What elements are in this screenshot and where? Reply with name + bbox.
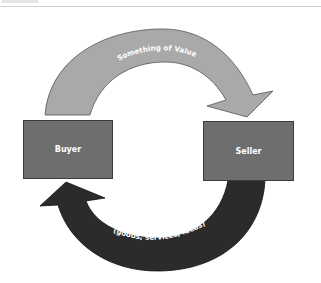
bottom-flow-title: Something of Value <box>119 205 197 225</box>
seller-box: Seller <box>203 121 294 181</box>
buyer-box: Buyer <box>23 120 113 179</box>
svg-text:Something of Value: Something of Value <box>119 205 197 225</box>
buyer-label: Buyer <box>55 145 81 154</box>
bottom-arrow <box>40 180 265 271</box>
seller-label: Seller <box>235 147 261 156</box>
